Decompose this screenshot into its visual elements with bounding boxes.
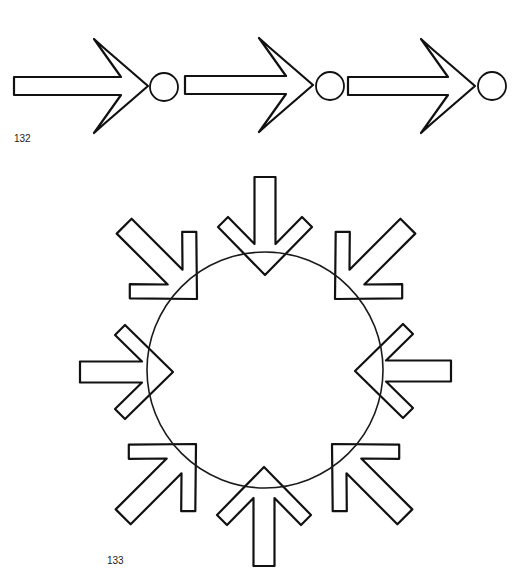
figure-132-arrow-sequence [14, 38, 506, 133]
node-circle-3-icon [478, 72, 506, 100]
arrow-top-left-icon [117, 219, 197, 299]
arrow-left-icon [80, 325, 173, 419]
central-circle-icon [147, 252, 383, 488]
node-circle-2-icon [316, 72, 344, 100]
node-circle-1-icon [150, 73, 178, 101]
figure-label-132: 132 [14, 134, 31, 144]
arrow-2-icon [185, 38, 313, 132]
figure-133-converging-arrows [80, 177, 451, 566]
arrow-3-icon [348, 39, 475, 133]
arrow-top-right-icon [335, 219, 415, 299]
diagram-canvas [0, 0, 531, 576]
arrow-bottom-right-icon [332, 444, 412, 524]
arrow-bottom-icon [217, 467, 311, 566]
arrow-right-icon [355, 324, 451, 418]
arrow-top-icon [218, 177, 312, 275]
arrow-1-icon [14, 39, 148, 133]
figure-label-133: 133 [107, 556, 124, 566]
